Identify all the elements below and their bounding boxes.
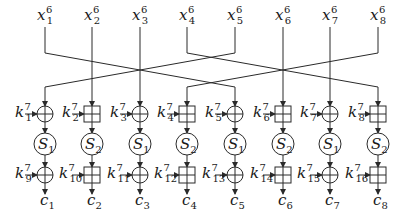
key-label-k5: k75 [205, 101, 222, 123]
output-label-c6: c6 [278, 191, 293, 211]
key-label-k8: k78 [348, 101, 365, 123]
output-label-c1: c1 [40, 191, 55, 211]
input-label-x1: x61 [37, 4, 53, 26]
key-label-k10: k710 [59, 162, 82, 184]
modular-add-icon-round-key-6 [275, 106, 291, 122]
spn-round-diagram: x61x62x63x64x65x66x67x68k71S1k79c1k72S2k… [0, 0, 412, 219]
output-label-c7: c7 [325, 191, 340, 211]
output-label-c4: c4 [182, 191, 197, 211]
xor-icon-whitening-key-7 [322, 167, 338, 183]
key-label-k3: k73 [110, 101, 127, 123]
modular-add-icon-whitening-key-6 [275, 167, 291, 183]
key-label-k7: k77 [300, 101, 317, 123]
xor-icon-whitening-key-1 [37, 167, 53, 183]
input-label-x6: x66 [275, 4, 291, 26]
output-label-c5: c5 [230, 191, 245, 211]
input-label-x7: x67 [322, 4, 338, 26]
key-label-k14: k714 [250, 162, 273, 184]
key-label-k16: k716 [345, 162, 368, 184]
xor-icon-round-key-5 [227, 106, 243, 122]
modular-add-icon-whitening-key-4 [179, 167, 195, 183]
modular-add-icon-whitening-key-8 [370, 167, 386, 183]
input-label-x5: x65 [227, 4, 243, 26]
modular-add-icon-round-key-8 [370, 106, 386, 122]
xor-icon-whitening-key-5 [227, 167, 243, 183]
input-label-x8: x68 [370, 4, 386, 26]
output-label-c2: c2 [87, 191, 102, 211]
xor-icon-round-key-1 [37, 106, 53, 122]
xor-icon-round-key-3 [132, 106, 148, 122]
key-label-k15: k715 [297, 162, 320, 184]
key-label-k6: k76 [253, 101, 270, 123]
key-label-k2: k72 [62, 101, 79, 123]
key-label-k1: k71 [15, 101, 32, 123]
key-label-k12: k712 [154, 162, 177, 184]
key-label-k9: k79 [15, 162, 32, 184]
modular-add-icon-round-key-2 [84, 106, 100, 122]
modular-add-icon-round-key-4 [179, 106, 195, 122]
output-label-c8: c8 [373, 191, 388, 211]
xor-icon-whitening-key-3 [132, 167, 148, 183]
key-label-k11: k711 [107, 162, 130, 184]
input-label-x4: x64 [179, 4, 195, 26]
output-label-c3: c3 [135, 191, 150, 211]
input-label-x2: x62 [84, 4, 100, 26]
key-label-k13: k713 [202, 162, 225, 184]
modular-add-icon-whitening-key-2 [84, 167, 100, 183]
xor-icon-round-key-7 [322, 106, 338, 122]
input-label-x3: x63 [132, 4, 148, 26]
key-label-k4: k74 [157, 101, 174, 123]
